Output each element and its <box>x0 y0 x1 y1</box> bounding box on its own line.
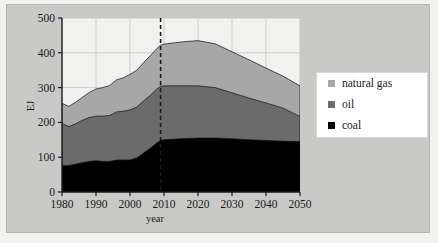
legend-item-natural-gas[interactable]: natural gas <box>317 73 427 94</box>
y-tick-label: 300 <box>38 82 56 94</box>
y-tick-label: 200 <box>38 116 56 128</box>
y-tick-label: 500 <box>38 12 56 24</box>
x-tick-label: 2010 <box>153 198 176 210</box>
legend-label-coal: coal <box>342 120 361 132</box>
legend-swatch-natural-gas <box>328 80 335 87</box>
legend-label-natural-gas: natural gas <box>342 78 392 90</box>
legend-label-oil: oil <box>342 99 354 111</box>
legend-swatch-oil <box>328 101 335 108</box>
y-axis-title: EJ <box>25 101 36 112</box>
x-tick-label: 2050 <box>289 198 312 210</box>
chart-legend: natural gas oil coal <box>316 72 428 138</box>
y-tick-group: 0100200300400500 <box>38 12 62 198</box>
x-tick-label: 1980 <box>51 198 74 210</box>
x-tick-group: 19801990200020102020203020402050 <box>51 192 312 210</box>
legend-swatch-coal <box>328 122 335 129</box>
legend-item-oil[interactable]: oil <box>317 94 427 115</box>
x-tick-label: 2040 <box>255 198 278 210</box>
y-tick-label: 400 <box>38 47 56 59</box>
legend-item-coal[interactable]: coal <box>317 115 427 136</box>
y-tick-label: 100 <box>38 151 56 163</box>
x-tick-label: 2000 <box>119 198 142 210</box>
x-tick-label: 2020 <box>187 198 210 210</box>
y-tick-label: 0 <box>49 186 55 198</box>
x-tick-label: 2030 <box>221 198 244 210</box>
x-tick-label: 1990 <box>85 198 108 210</box>
x-axis-title: year <box>146 213 165 224</box>
